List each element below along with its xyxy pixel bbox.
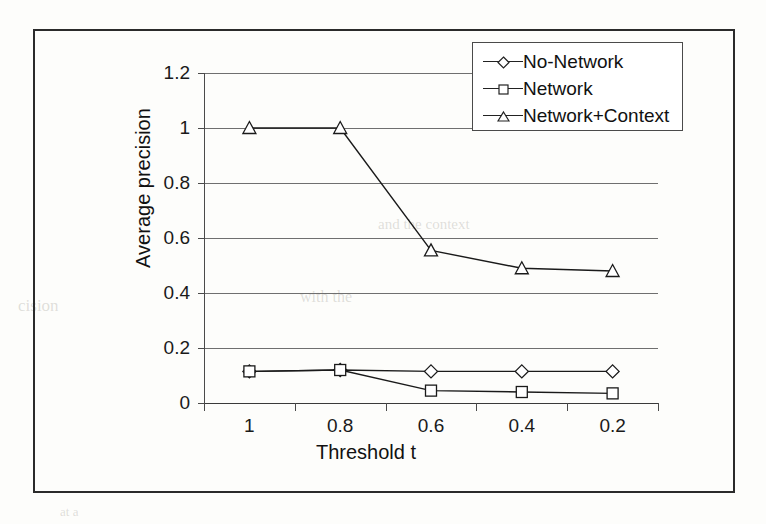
x-axis-tick-label: 0.2 bbox=[578, 416, 648, 435]
legend-item-network-context: Network+Context bbox=[483, 102, 682, 129]
gridline bbox=[204, 238, 658, 239]
y-axis-tick bbox=[198, 73, 204, 74]
y-axis-tick bbox=[198, 293, 204, 294]
chart-legend: No-Network Network Network+Context bbox=[472, 42, 683, 131]
gridline bbox=[204, 183, 658, 184]
y-axis-tick-label: 0 bbox=[130, 393, 190, 412]
legend-key-square-icon bbox=[483, 79, 523, 99]
x-axis-tick bbox=[204, 403, 205, 411]
x-axis-tick-label: 1 bbox=[214, 416, 284, 435]
legend-item-no-network: No-Network bbox=[483, 48, 682, 75]
x-axis-tick-label: 0.8 bbox=[305, 416, 375, 435]
x-axis-tick-label: 0.6 bbox=[396, 416, 466, 435]
x-axis-line bbox=[204, 403, 658, 404]
x-axis-tick bbox=[295, 403, 296, 411]
gridline bbox=[204, 293, 658, 294]
legend-key-diamond-icon bbox=[483, 52, 523, 72]
y-axis-line bbox=[204, 73, 205, 403]
y-axis-tick bbox=[198, 183, 204, 184]
x-axis-title: Threshold t bbox=[316, 441, 416, 464]
x-axis-tick bbox=[476, 403, 477, 411]
legend-label: Network bbox=[523, 79, 593, 99]
x-axis-tick bbox=[567, 403, 568, 411]
legend-key-triangle-icon bbox=[483, 106, 523, 126]
x-axis-tick bbox=[658, 403, 659, 411]
y-axis-tick bbox=[198, 128, 204, 129]
x-axis-tick bbox=[386, 403, 387, 411]
y-axis-tick bbox=[198, 348, 204, 349]
legend-item-network: Network bbox=[483, 75, 682, 102]
y-axis-title: Average precision bbox=[132, 38, 155, 338]
x-axis-tick-label: 0.4 bbox=[487, 416, 557, 435]
gridline bbox=[204, 348, 658, 349]
y-axis-tick-label: 0.2 bbox=[130, 338, 190, 357]
y-axis-tick bbox=[198, 238, 204, 239]
legend-label: Network+Context bbox=[523, 106, 669, 126]
legend-label: No-Network bbox=[523, 52, 623, 72]
